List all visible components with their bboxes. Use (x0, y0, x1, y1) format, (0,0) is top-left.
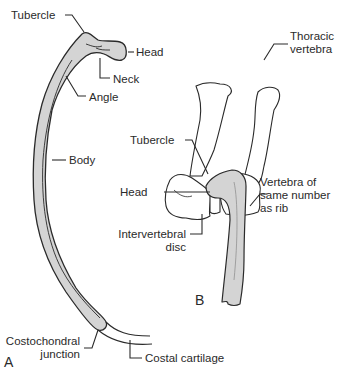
label-costal-cartilage: Costal cartilage (145, 352, 224, 365)
label-a-tubercle: Tubercle (11, 9, 55, 22)
rib-b (206, 170, 246, 306)
panel-label-b: B (195, 292, 204, 308)
label-vertebra-same-number: Vertebra of same number as rib (260, 176, 330, 215)
label-a-neck: Neck (113, 73, 139, 86)
label-intervertebral-disc: Intervertebral disc (108, 228, 186, 254)
label-b-tubercle: Tubercle (130, 134, 174, 147)
label-costochondral-junction: Costochondral junction (2, 335, 80, 361)
label-a-angle: Angle (89, 91, 118, 104)
panel-label-a: A (4, 354, 13, 370)
label-a-head: Head (136, 46, 164, 59)
label-b-head: Head (120, 186, 148, 199)
label-thoracic-vertebra: Thoracic vertebra (290, 30, 334, 56)
label-a-body: Body (69, 154, 95, 167)
